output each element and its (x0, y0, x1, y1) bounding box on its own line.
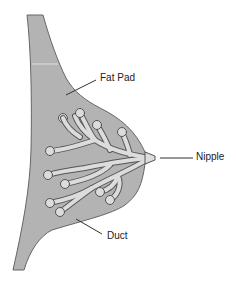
nipple-shape (145, 152, 155, 164)
fat-pad-label: Fat Pad (100, 72, 135, 83)
duct-leader (76, 219, 102, 234)
nipple-label: Nipple (196, 151, 224, 162)
diagram-canvas (0, 0, 236, 285)
duct-label: Duct (107, 230, 128, 241)
